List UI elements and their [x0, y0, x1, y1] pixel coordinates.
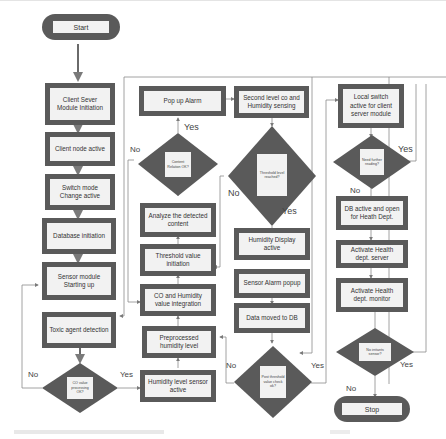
toxic-agent-box: Toxic agent detection [42, 312, 116, 348]
sensor-module-box: Sensor module Starting up [42, 262, 116, 300]
second-level-sensing-box: Second level co and Humidity sensing [234, 86, 309, 118]
no-irritants-yes-label: Yes [400, 360, 413, 369]
need-reading-no-label: No [350, 186, 360, 195]
figure-caption-fragment [330, 430, 350, 434]
content-relation-decision: Content Relation OK? [138, 133, 218, 196]
client-server-init-box: Client Sever Module Initiation [45, 83, 115, 125]
content-yes-label: Yes [184, 122, 199, 132]
post-threshold-decision: Post threshold value check ok? [234, 346, 312, 418]
popup-alarm-box: Pop up Alarm [139, 86, 226, 116]
analyze-box: Analyze the detected content [140, 203, 216, 237]
co-decision-no-label: No [28, 370, 38, 379]
activate-monitor-box: Activate Health dept. monitor [336, 278, 408, 312]
client-node-active-box: Client node active [45, 132, 115, 166]
stop-terminal: Stop [334, 396, 410, 422]
co-humidity-integration-box: CO and Humidity value integration [140, 284, 216, 316]
post-threshold-yes-label: Yes [311, 361, 324, 370]
preprocessed-humidity-box: Preprocessed humidity level [142, 326, 216, 358]
threshold-reached-decision: Threshold level reached? [228, 126, 316, 226]
threshold-no-label: No [228, 188, 240, 198]
humidity-display-box: Humidity Display active [234, 228, 310, 260]
threshold-yes-label: Yes [282, 206, 297, 216]
sensor-alarm-box: Sensor Alarm popup [234, 269, 310, 298]
flowchart-canvas: Start Client Sever Module Initiation Cli… [0, 0, 446, 439]
db-active-box: DB active and open for Heath Dept. [336, 196, 408, 230]
activate-server-box: Activate Health dept. server [336, 240, 408, 268]
database-init-box: Database initiation [42, 218, 116, 254]
co-decision-yes-label: Yes [120, 370, 133, 379]
threshold-init-box: Threshold value initiation [140, 244, 216, 276]
co-value-decision: CO value processing OK? [42, 363, 118, 413]
humidity-sensor-box: Humidity level sensor active [140, 370, 216, 402]
no-irritants-no-label: No [346, 384, 356, 393]
start-label: Start [53, 21, 109, 32]
switch-mode-box: Switch mode Change active [45, 174, 115, 210]
data-moved-box: Data moved to DB [234, 303, 310, 333]
start-terminal: Start [42, 14, 120, 40]
need-reading-yes-label: Yes [398, 144, 413, 154]
figure-caption-placeholder [14, 430, 164, 434]
post-threshold-no-label: No [226, 361, 236, 370]
stop-label: Stop [342, 403, 403, 414]
local-switch-box: Local switch active for client server mo… [338, 84, 404, 128]
